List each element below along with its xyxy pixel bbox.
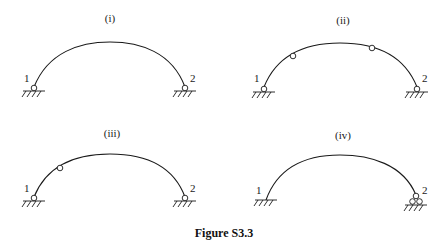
internal-hinge-icon [290,53,296,59]
pin-support-right [405,86,428,98]
node-label-2: 2 [190,182,196,194]
pin-support-right [173,195,196,207]
pin-icon [182,85,188,91]
panel-label: (iv) [335,129,351,142]
pin-support-right [173,85,196,97]
pin-support-left [22,195,45,207]
fixed-support-left [254,200,277,206]
pin-icon [261,86,267,92]
panel-label: (i) [105,12,116,25]
pin-support-left [252,86,275,98]
node-label-2: 2 [422,184,428,196]
arch-member [264,43,417,87]
panel-label: (ii) [336,14,350,27]
arch-member [34,154,185,197]
node-label-1: 1 [24,182,30,194]
panel-ii: (ii) 1 2 [252,14,428,98]
pin-icon [31,85,37,91]
internal-hinge-icon [369,45,375,51]
figure-canvas: (i) 1 2 (ii) 1 2 (iii) 1 [0,0,448,243]
panel-label: (iii) [104,127,121,140]
node-label-1: 1 [256,184,262,196]
panel-i: (i) 1 2 [22,12,196,97]
panel-iii: (iii) 1 2 [22,127,196,207]
node-label-2: 2 [422,72,428,84]
pin-icon [413,193,419,199]
arch-member [266,155,416,200]
pin-icon [31,195,37,201]
node-label-2: 2 [190,72,196,84]
pin-icon [182,195,188,201]
figure-caption: Figure S3.3 [195,226,253,240]
node-label-1: 1 [24,72,30,84]
pin-support-left [22,85,45,97]
arch-member [34,42,185,87]
panel-iv: (iv) 1 2 [254,129,428,211]
roller-icon [417,199,423,205]
node-label-1: 1 [254,72,260,84]
pin-icon [414,86,420,92]
internal-hinge-icon [57,165,63,171]
roller-icon [410,199,416,205]
